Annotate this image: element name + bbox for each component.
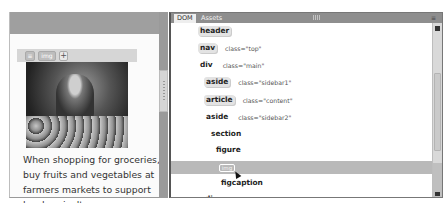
dom-node-attr: class="main"	[223, 62, 265, 69]
dom-node-img-editing[interactable]: img	[219, 164, 235, 172]
dom-node-attr: class="push"	[228, 196, 269, 199]
scroll-up-arrow-icon[interactable]	[435, 26, 440, 31]
live-view-top-bar	[10, 12, 159, 34]
dom-panel-scrollbar[interactable]	[432, 23, 442, 198]
element-hud-tag-label[interactable]: img	[38, 51, 56, 61]
dom-node-tag: aside	[204, 77, 230, 87]
photo-apples	[26, 116, 128, 148]
caption-line: local agriculture.	[23, 197, 145, 203]
caption-line: When shopping for groceries,	[23, 152, 145, 167]
dom-node-tag: div	[203, 194, 220, 198]
dom-node-header[interactable]: header	[198, 25, 231, 37]
panel-options-menu-icon[interactable]: ≡	[431, 15, 439, 21]
dom-node-attr: class="sidebar2"	[238, 114, 291, 121]
caption-line: buy fruits and vegetables at	[23, 167, 145, 182]
element-hud-menu-icon[interactable]: ≡	[25, 51, 35, 61]
photo-shopper-figure	[56, 74, 94, 118]
dom-node-tag: section	[209, 129, 243, 139]
element-hud: ≡ img +	[17, 49, 137, 62]
dom-tree: header nav class="top" div class="main" …	[171, 23, 433, 198]
dom-node-tag: article	[204, 95, 235, 105]
dom-node-aside-sidebar2[interactable]: aside class="sidebar2"	[204, 111, 291, 123]
dom-node-tag: figcaption	[219, 178, 265, 188]
dom-node-article-content[interactable]: article class="content"	[204, 94, 293, 106]
farmers-market-image[interactable]	[26, 62, 128, 148]
dom-node-tag: div	[198, 60, 215, 70]
scroll-down-arrow-icon[interactable]	[435, 192, 440, 196]
dom-node-tag: aside	[204, 112, 230, 122]
dom-panel: DOM Assets ≡ header nav class="top" div …	[169, 12, 443, 198]
caption-line: farmers markets to support	[23, 182, 145, 197]
dom-node-section[interactable]: section	[209, 128, 243, 140]
dreamweaver-workspace: ≡ img + When shopping for groceries, buy…	[0, 0, 447, 206]
panel-drag-grip-icon[interactable]	[313, 15, 321, 20]
tab-assets[interactable]: Assets	[198, 14, 225, 23]
dom-node-figcaption[interactable]: figcaption	[219, 177, 265, 189]
dom-node-attr: class="content"	[243, 97, 293, 104]
dom-node-attr: class="top"	[225, 45, 261, 52]
dom-node-aside-sidebar1[interactable]: aside class="sidebar1"	[204, 76, 291, 88]
dom-node-tag: header	[198, 26, 231, 36]
panel-tab-bar: DOM Assets ≡	[171, 13, 442, 23]
splitter-grip-handle[interactable]	[159, 70, 168, 112]
dom-node-nav[interactable]: nav class="top"	[198, 42, 261, 54]
dom-node-tag: nav	[198, 43, 217, 53]
element-hud-add-button[interactable]: +	[59, 51, 68, 61]
tab-dom[interactable]: DOM	[174, 14, 196, 23]
scroll-thumb[interactable]	[434, 73, 441, 151]
dom-node-div-push[interactable]: div class="push"	[203, 193, 269, 198]
figure-caption: When shopping for groceries, buy fruits …	[23, 152, 145, 203]
dom-node-attr: class="sidebar1"	[238, 79, 291, 86]
dom-node-div-main[interactable]: div class="main"	[198, 59, 264, 71]
dom-node-tag: figure	[214, 145, 243, 155]
dom-node-figure[interactable]: figure	[214, 144, 243, 156]
dom-tree-selected-row[interactable]	[171, 161, 433, 174]
